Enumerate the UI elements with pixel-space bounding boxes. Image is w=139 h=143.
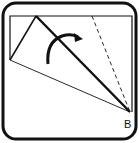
frame-border [3, 3, 136, 139]
fold-diagram [0, 0, 139, 143]
point-label-b: B [124, 118, 131, 130]
